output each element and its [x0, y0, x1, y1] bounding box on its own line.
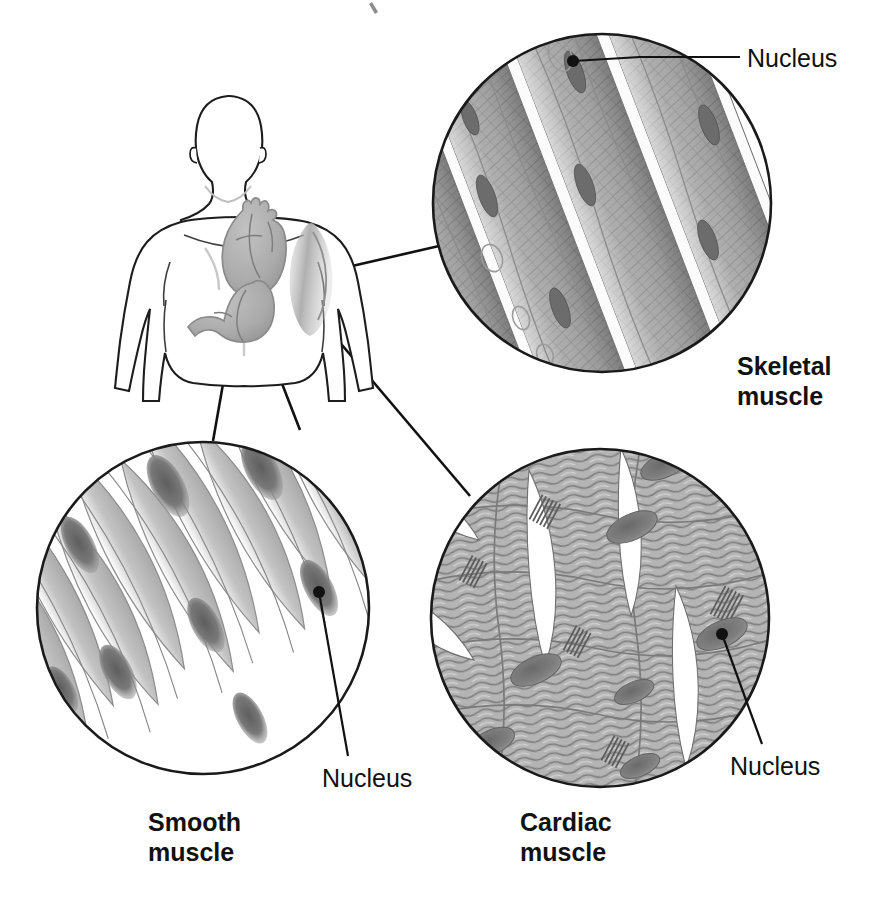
dot-skeletal-nucleus — [567, 55, 579, 67]
label-skeletal-muscle: Skeletalmuscle — [737, 352, 832, 411]
label-nucleus-skeletal: Nucleus — [747, 44, 837, 74]
label-cardiac-line2: muscle — [520, 838, 606, 866]
label-cardiac-line1: Cardiac — [520, 808, 612, 836]
label-skeletal-line2: muscle — [737, 382, 823, 410]
label-cardiac-muscle: Cardiacmuscle — [520, 808, 612, 867]
label-smooth-muscle: Smoothmuscle — [148, 808, 241, 867]
label-nucleus-smooth: Nucleus — [322, 764, 412, 794]
label-smooth-line1: Smooth — [148, 808, 241, 836]
label-nucleus-cardiac: Nucleus — [730, 752, 820, 782]
dot-cardiac-nucleus — [716, 628, 728, 640]
label-smooth-line2: muscle — [148, 838, 234, 866]
ear-right — [259, 148, 266, 163]
dot-smooth-nucleus — [313, 586, 325, 598]
label-skeletal-line1: Skeletal — [737, 352, 832, 380]
ear-left — [190, 148, 197, 163]
